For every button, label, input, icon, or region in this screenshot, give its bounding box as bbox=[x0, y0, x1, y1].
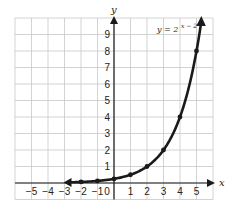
x-tick-label: −1 bbox=[92, 186, 104, 197]
x-axis-arrow-icon bbox=[207, 179, 215, 187]
data-points bbox=[79, 49, 199, 185]
x-tick-label: 5 bbox=[194, 186, 200, 197]
x-tick-label: 4 bbox=[177, 186, 183, 197]
y-tick-label: 7 bbox=[104, 62, 110, 73]
x-tick-label: −2 bbox=[75, 186, 87, 197]
x-tick-label: −4 bbox=[42, 186, 54, 197]
y-tick-label: 1 bbox=[104, 161, 110, 172]
data-point-marker bbox=[95, 179, 100, 184]
x-tick-label: 3 bbox=[161, 186, 167, 197]
equation-label: y = 2 x − 2 bbox=[156, 22, 197, 34]
exponential-graph: −5−4−3−2−1012345123456789 x y y = 2 x − … bbox=[0, 0, 233, 218]
axes bbox=[15, 16, 215, 200]
y-tick-label: 6 bbox=[104, 79, 110, 90]
x-tick-label: −3 bbox=[59, 186, 71, 197]
data-point-marker bbox=[145, 164, 150, 169]
curve-path bbox=[70, 25, 201, 183]
data-point-marker bbox=[128, 172, 133, 177]
x-axis-label: x bbox=[219, 177, 225, 188]
x-tick-label: 2 bbox=[144, 186, 150, 197]
y-tick-label: 2 bbox=[104, 145, 110, 156]
x-tick-label: 0 bbox=[104, 186, 110, 197]
curve-top-arrow-icon bbox=[196, 16, 206, 26]
y-tick-label: 4 bbox=[104, 112, 110, 123]
tick-labels: −5−4−3−2−1012345123456789 bbox=[26, 29, 200, 197]
x-tick-label: −5 bbox=[26, 186, 38, 197]
equation-exponent: x − 2 bbox=[181, 22, 197, 29]
equation-base: y = 2 bbox=[156, 25, 178, 34]
y-axis-arrow-icon bbox=[110, 16, 118, 24]
data-point-marker bbox=[178, 115, 183, 120]
function-curve bbox=[64, 16, 206, 187]
data-point-marker bbox=[194, 49, 199, 54]
data-point-marker bbox=[161, 148, 166, 153]
y-tick-label: 3 bbox=[104, 128, 110, 139]
x-tick-label: 1 bbox=[128, 186, 134, 197]
y-axis-label: y bbox=[110, 4, 117, 15]
y-tick-label: 8 bbox=[104, 46, 110, 57]
data-point-marker bbox=[112, 176, 117, 181]
data-point-marker bbox=[79, 180, 84, 185]
y-tick-label: 5 bbox=[104, 95, 110, 106]
y-tick-label: 9 bbox=[104, 29, 110, 40]
